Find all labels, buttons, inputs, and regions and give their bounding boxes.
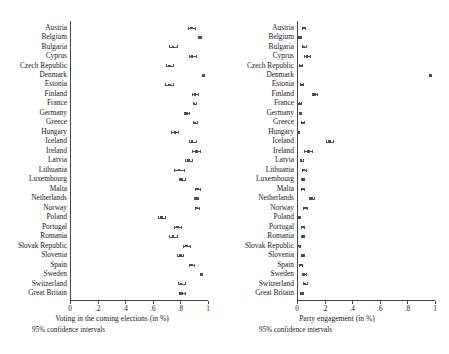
estimate-point [303,283,306,286]
estimate-point [187,159,190,162]
ci-lower-cap [174,169,175,172]
estimate-point [191,55,194,58]
x-axis-title: Party engagement (in %) [225,314,449,323]
ci-upper-cap [312,150,313,153]
country-label: Slovak Republic [245,242,294,250]
estimate-point [297,131,300,134]
country-label: Norway [270,204,294,212]
x-axis-tick-label: 0 [58,305,82,313]
ci-lower-cap [171,131,172,134]
estimate-point [176,226,179,229]
x-axis-tick-label: .8 [168,305,192,313]
estimate-point [194,93,197,96]
ci-upper-cap [192,159,193,162]
x-axis-line [70,300,208,301]
estimate-point [304,207,307,210]
ci-upper-cap [303,83,304,86]
country-label: Bulgaria [42,43,67,51]
country-label: Ireland [46,147,67,155]
country-label: Austria [272,24,294,32]
country-label: Spain [277,261,294,269]
country-label: Great Britain [28,289,67,297]
country-label: Cyprus [273,52,294,60]
ci-upper-cap [196,102,197,105]
country-label: Ireland [273,147,294,155]
ci-upper-cap [184,169,185,172]
country-label: Finland [44,90,67,98]
ci-lower-cap [185,159,186,162]
estimate-point [190,27,193,30]
x-axis-tick [352,301,353,304]
country-label: Czech Republic [20,62,67,70]
estimate-point [179,254,182,257]
ci-upper-cap [183,254,184,257]
country-label: France [47,99,67,107]
ci-upper-cap [173,64,174,67]
estimate-point [194,122,197,125]
estimate-point [302,169,305,172]
country-label: Sweden [271,270,294,278]
ci-upper-cap [195,27,196,30]
x-axis-tick-label: .2 [313,305,337,313]
estimate-point [196,188,199,191]
ci-upper-cap [200,150,201,153]
country-label: Romania [40,232,67,240]
ci-upper-cap [302,64,303,67]
ci-upper-cap [310,55,311,58]
ci-upper-cap [306,169,307,172]
ci-upper-cap [196,55,197,58]
ci-upper-cap [198,197,199,200]
country-label: Hungary [41,128,67,136]
country-label: Denmark [40,71,68,79]
country-label: Estonia [272,80,294,88]
x-axis-tick [435,301,436,304]
ci-upper-cap [304,235,305,238]
estimate-point [174,131,177,134]
estimate-point [198,36,201,39]
ci-upper-cap [304,178,305,181]
ci-lower-cap [169,45,170,48]
x-axis-tick-label: .4 [113,305,137,313]
ci-upper-cap [190,245,191,248]
country-label: Luxembourg [256,175,294,183]
estimate-point [301,254,304,257]
x-axis-tick-label: .2 [86,305,110,313]
ci-upper-cap [185,178,186,181]
ci-upper-cap [196,140,197,143]
estimate-point [160,216,163,219]
x-axis-tick [297,301,298,304]
country-label: Cyprus [46,52,67,60]
ci-lower-cap [192,150,193,153]
country-label: Luxembourg [29,175,67,183]
estimate-point [301,226,304,229]
ci-upper-cap [201,36,202,39]
x-axis-tick-label: 0 [285,305,309,313]
estimate-point [195,207,198,210]
estimate-point [303,273,306,276]
estimate-point [300,159,303,162]
y-axis-line [70,21,71,300]
estimate-point [168,65,171,68]
country-label: Hungary [268,128,294,136]
ci-upper-cap [303,292,304,295]
country-label: Sweden [44,270,67,278]
estimate-point [299,112,302,115]
country-label: Spain [50,261,67,269]
ci-lower-cap [169,235,170,238]
country-label: Iceland [272,137,294,145]
country-label: Netherlands [258,194,294,202]
confidence-interval-note: 95% confidence intervals [32,326,105,335]
ci-upper-cap [185,282,186,285]
x-axis-tick [325,301,326,304]
country-label: Poland [46,213,67,221]
confidence-interval-note: 95% confidence intervals [259,326,332,335]
x-axis-tick [70,301,71,304]
ci-upper-cap [302,264,303,267]
country-label: Malta [50,185,67,193]
ci-upper-cap [181,226,182,229]
ci-lower-cap [178,282,179,285]
country-label: Denmark [267,71,295,79]
country-label: Portugal [42,223,67,231]
ci-lower-cap [158,216,159,219]
estimate-point [178,169,181,172]
